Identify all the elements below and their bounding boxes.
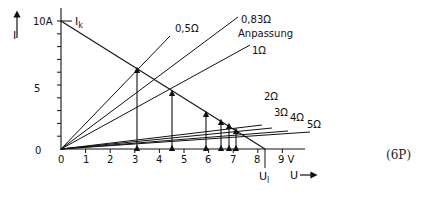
- svg-text:8: 8: [254, 154, 260, 165]
- y-tick-10: 10A: [33, 16, 53, 27]
- label-0-5ohm: 0,5Ω: [175, 23, 199, 34]
- x-axis-label: U: [290, 169, 298, 182]
- label-1ohm: 1Ω: [252, 45, 266, 56]
- svg-text:1: 1: [83, 154, 89, 165]
- svg-text:3: 3: [132, 154, 138, 165]
- label-3ohm: 3Ω: [274, 107, 288, 118]
- x-ticks: [86, 149, 283, 153]
- ik-label: Ik: [75, 15, 83, 30]
- y-tick-5: 5: [34, 83, 40, 94]
- svg-text:7: 7: [230, 154, 236, 165]
- label-5ohm: 5Ω: [307, 119, 321, 130]
- svg-text:5: 5: [181, 154, 187, 165]
- source-characteristic-line: [61, 21, 265, 149]
- figure-reference: (6P): [386, 148, 411, 162]
- y-ticks: [57, 21, 61, 136]
- ul-label: Ul: [259, 170, 269, 185]
- x-tick-labels: 0 1 2 3 4 5 6 7 8 9 V: [58, 154, 295, 165]
- svg-text:4: 4: [156, 154, 162, 165]
- label-anpassung: Anpassung: [238, 28, 293, 39]
- y-tick-0: 0: [35, 145, 41, 156]
- svg-text:2: 2: [107, 154, 113, 165]
- svg-text:9 V: 9 V: [278, 154, 295, 165]
- label-4ohm: 4Ω: [290, 112, 304, 123]
- label-2ohm: 2Ω: [264, 91, 278, 102]
- characteristic-diagram: I 10A 5 0 0 1 2 3 4 5 6 7 8: [0, 0, 442, 198]
- load-line-0-83ohm: [61, 17, 238, 149]
- svg-text:6: 6: [205, 154, 211, 165]
- load-line-0-5ohm: [61, 36, 170, 149]
- svg-text:0: 0: [58, 154, 64, 165]
- y-axis-label: I: [13, 29, 16, 42]
- label-0-83ohm: 0,83Ω: [241, 14, 271, 25]
